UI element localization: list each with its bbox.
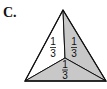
fraction-bottom-denominator: 3 xyxy=(62,70,68,81)
fraction-left: 1 3 xyxy=(50,36,56,59)
fraction-right: 1 3 xyxy=(71,36,77,59)
fraction-left-numerator: 1 xyxy=(50,36,56,47)
fraction-right-denominator: 3 xyxy=(71,48,77,59)
fraction-bottom: 1 3 xyxy=(62,59,68,81)
fraction-bottom-numerator: 1 xyxy=(62,59,68,70)
fraction-right-numerator: 1 xyxy=(71,36,77,47)
fraction-left-denominator: 3 xyxy=(50,48,56,59)
triangle-diagram: 1 3 1 3 1 3 xyxy=(0,0,107,89)
